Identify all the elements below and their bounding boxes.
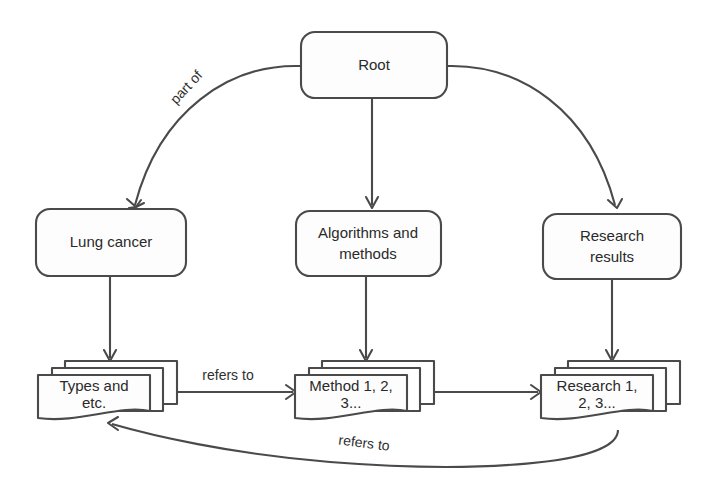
node-research-stack[interactable]: Research 1, 2, 3... [541,361,680,419]
edge-research-results-to-research[interactable] [606,279,618,361]
algorithms-box [296,211,441,276]
edge-algorithms-to-methods[interactable] [360,276,372,361]
method-label-line1: Method 1, 2, [309,377,392,394]
diagram-canvas: Types and etc. Method 1, 2, 3... Researc… [0,0,718,490]
edge-root-to-research-results[interactable] [447,66,622,208]
node-method-stack[interactable]: Method 1, 2, 3... [295,361,434,419]
research-label-line2: 2, 3... [578,394,616,411]
node-lung-cancer[interactable]: Lung cancer [36,209,186,276]
edge-lung-cancer-to-types[interactable] [104,276,116,361]
node-research-results[interactable]: Research results [543,214,681,279]
edge-root-to-lung-cancer[interactable] [127,66,300,208]
algorithms-label-line1: Algorithms and [318,224,418,241]
research-results-label-line1: Research [580,227,644,244]
edge-types-to-methods[interactable] [177,385,296,399]
algorithms-label-line2: methods [339,245,397,262]
node-root[interactable]: Root [301,32,447,98]
lung-cancer-label: Lung cancer [70,233,153,250]
edge-label-refers-to-types-methods: refers to [202,367,254,383]
types-label-line2: etc. [82,394,106,411]
root-label: Root [358,56,391,73]
ontology-diagram: Types and etc. Method 1, 2, 3... Researc… [0,0,718,490]
node-algorithms-and-methods[interactable]: Algorithms and methods [296,211,441,276]
node-types-and-etc[interactable]: Types and etc. [38,361,177,419]
edge-root-to-algorithms[interactable] [366,98,378,208]
method-label-line2: 3... [341,394,362,411]
research-results-label-line2: results [590,248,634,265]
edge-methods-to-research[interactable] [434,385,541,399]
types-label-line1: Types and [59,377,128,394]
research-results-box [543,214,681,279]
edge-label-refers-to-research-types: refers to [338,432,391,454]
research-label-line1: Research 1, [557,377,638,394]
